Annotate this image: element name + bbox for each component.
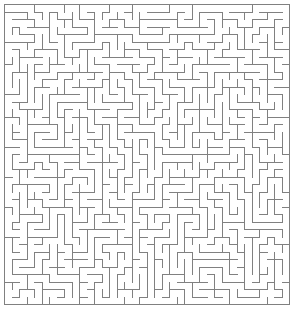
maze-figure (0, 0, 297, 315)
maze-canvas (0, 0, 297, 315)
